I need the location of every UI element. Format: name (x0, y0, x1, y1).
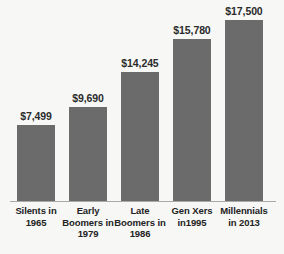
bar-group: $9,690 (69, 92, 107, 201)
bar-rect[interactable] (121, 72, 159, 201)
bar-group: $14,245 (121, 57, 159, 201)
x-tick-label-line: Millennials (211, 205, 277, 217)
bar-group: $15,780 (173, 24, 211, 201)
bar-value-label: $14,245 (121, 57, 158, 69)
bar-rect[interactable] (225, 20, 263, 201)
bar-rect[interactable] (173, 39, 211, 201)
bar-value-label: $7,499 (20, 110, 52, 122)
x-tick-label: Millennials in 2013 (211, 205, 277, 228)
bar-rect[interactable] (69, 107, 107, 201)
bar-rect[interactable] (17, 125, 55, 201)
plot-area: $7,499 $9,690 $14,245 $15,780 $17,500 (0, 0, 284, 202)
bar-chart: $7,499 $9,690 $14,245 $15,780 $17,500 Si… (0, 0, 284, 254)
bar-value-label: $17,500 (225, 5, 262, 17)
bar-value-label: $15,780 (173, 24, 210, 36)
x-axis-labels: Silents in 1965 Early Boomers in 1979 La… (0, 205, 284, 254)
x-tick-label-line: in 2013 (211, 217, 277, 229)
x-tick-label-line: 1986 (107, 228, 173, 240)
bar-group: $7,499 (17, 110, 55, 201)
bar-value-label: $9,690 (72, 92, 104, 104)
x-axis-line (10, 201, 276, 202)
bar-group: $17,500 (225, 5, 263, 201)
